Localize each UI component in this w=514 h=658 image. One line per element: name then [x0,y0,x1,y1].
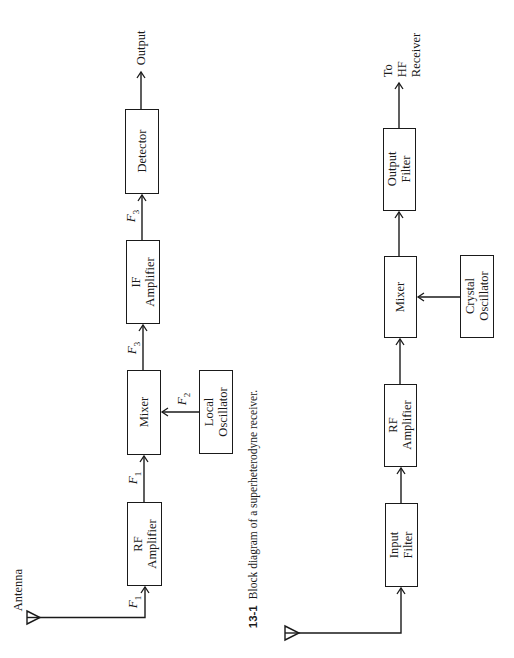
detector-label: Detector [135,129,149,172]
signal-label-f3-if: F3 [123,210,141,222]
to-hf-receiver-label: To HF Receiver [381,33,423,77]
output-filter-label: Output Filter [385,152,413,187]
antenna-icon-top [27,611,40,624]
diagram-canvas: RF Amplifier Mixer Local Oscillator IF A… [0,0,514,658]
antenna-icon-bottom [285,626,299,640]
local-oscillator-label: Local Oscillator [202,387,230,436]
figure-caption: 13-1Block diagram of a superheterodyne r… [247,390,259,629]
mixer-label-2: Mixer [393,282,407,313]
output-label: Output [134,31,148,66]
antenna-label: Antenna [11,569,25,611]
input-filter-label: Input Filter [387,531,415,558]
rf-amplifier-label: RF Amplifier [131,519,159,568]
signal-label-f1-antenna: F1 [125,596,143,608]
if-amplifier-label: IF Amplifier [129,257,157,306]
rf-amplifier-label-2: RF Amplifier [386,400,414,449]
figure-number: 13-1 [247,605,259,628]
mixer-label: Mixer [137,397,151,428]
crystal-oscillator-label: Crystal Oscillator [463,271,491,320]
signal-label-f1-rf: F1 [125,472,143,484]
figure-caption-text: Block diagram of a superheterodyne recei… [247,390,259,599]
signal-label-f2: F2 [174,393,192,405]
signal-label-f3-mixer: F3 [124,342,142,354]
